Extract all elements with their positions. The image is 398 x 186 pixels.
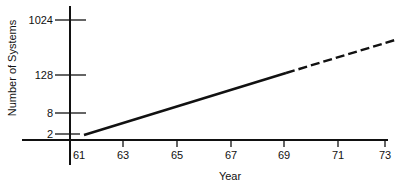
- xtick-63: 63: [117, 149, 129, 161]
- series-projected-line: [286, 40, 395, 73]
- xtick-69: 69: [278, 149, 290, 161]
- x-ticks: 61 63 65 67 69 71 73: [73, 140, 391, 161]
- xtick-71: 71: [332, 149, 344, 161]
- xtick-67: 67: [225, 149, 237, 161]
- ytick-2: 2: [47, 128, 53, 140]
- y-ticks: 1024 128 8 2: [29, 14, 86, 140]
- xtick-61: 61: [73, 149, 85, 161]
- ytick-128: 128: [35, 69, 53, 81]
- xtick-65: 65: [171, 149, 183, 161]
- x-axis-label: Year: [219, 170, 242, 182]
- series-actual-line: [84, 73, 286, 135]
- y-axis-label: Number of Systems: [6, 19, 18, 116]
- chart: 1024 128 8 2 61 63 65 67 69 71 73 Year N…: [0, 0, 398, 186]
- ytick-8: 8: [47, 107, 53, 119]
- xtick-73: 73: [379, 149, 391, 161]
- ytick-1024: 1024: [29, 14, 53, 26]
